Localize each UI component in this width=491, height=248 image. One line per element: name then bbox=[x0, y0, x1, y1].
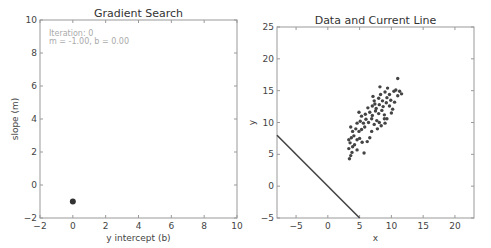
data-point bbox=[355, 148, 358, 151]
data-point bbox=[374, 107, 377, 110]
data-point bbox=[349, 154, 352, 157]
data-point bbox=[378, 103, 381, 106]
data-point bbox=[383, 90, 386, 93]
data-point bbox=[386, 86, 389, 89]
x-tick-label: 15 bbox=[417, 221, 428, 231]
y-tick-label: −2 bbox=[24, 213, 37, 223]
y-tick-label: 8 bbox=[31, 48, 37, 58]
data-point bbox=[373, 123, 376, 126]
data-point bbox=[366, 106, 369, 109]
x-tick-label: 6 bbox=[168, 221, 174, 231]
data-point bbox=[393, 100, 396, 103]
data-point bbox=[366, 140, 369, 143]
y-tick-label: 10 bbox=[263, 118, 275, 128]
data-point bbox=[348, 141, 351, 144]
data-point bbox=[378, 121, 381, 124]
y-tick-label: −5 bbox=[261, 213, 274, 223]
data-point bbox=[377, 112, 380, 115]
x-axis-label: y intercept (b) bbox=[106, 233, 170, 243]
data-point bbox=[373, 102, 376, 105]
data-point bbox=[388, 93, 391, 96]
current-parameter-point bbox=[70, 199, 76, 205]
plot-frame bbox=[277, 27, 474, 218]
y-tick-label: 4 bbox=[31, 114, 37, 124]
current-fit-line bbox=[277, 135, 360, 218]
data-point bbox=[368, 111, 371, 114]
x-axis-label: x bbox=[373, 233, 379, 243]
x-tick-label: −5 bbox=[289, 221, 302, 231]
y-tick-label: 0 bbox=[268, 181, 274, 191]
data-point bbox=[380, 109, 383, 112]
data-point bbox=[364, 113, 367, 116]
data-point bbox=[360, 114, 363, 117]
x-tick-label: 2 bbox=[103, 221, 109, 231]
data-point bbox=[353, 143, 356, 146]
x-tick-label: 8 bbox=[201, 221, 207, 231]
y-axis-label: y bbox=[247, 119, 257, 125]
data-point bbox=[360, 141, 363, 144]
data-point bbox=[357, 111, 360, 114]
data-point bbox=[389, 99, 392, 102]
data-point bbox=[351, 130, 354, 133]
data-point bbox=[383, 113, 386, 116]
data-point bbox=[363, 125, 366, 128]
data-point bbox=[380, 124, 383, 127]
data-point bbox=[349, 125, 352, 128]
data-point bbox=[379, 93, 382, 96]
data-point bbox=[391, 107, 394, 110]
x-tick-label: 10 bbox=[386, 221, 398, 231]
data-point bbox=[370, 117, 373, 120]
data-point bbox=[348, 157, 351, 160]
data-point bbox=[381, 105, 384, 108]
chart-title: Gradient Search bbox=[94, 7, 183, 20]
x-tick-label: 10 bbox=[231, 221, 243, 231]
data-point bbox=[368, 136, 371, 139]
data-point bbox=[394, 88, 397, 91]
data-point bbox=[367, 121, 370, 124]
data-point bbox=[390, 111, 393, 114]
data-point bbox=[362, 121, 365, 124]
y-tick-label: 10 bbox=[26, 15, 38, 25]
data-point bbox=[347, 147, 350, 150]
x-tick-label: 4 bbox=[136, 221, 142, 231]
data-point bbox=[383, 117, 386, 120]
data-point bbox=[371, 95, 374, 98]
data-point bbox=[376, 127, 379, 130]
data-point bbox=[383, 121, 386, 124]
y-tick-label: 15 bbox=[263, 86, 274, 96]
data-point bbox=[355, 121, 358, 124]
data-point bbox=[388, 104, 391, 107]
y-tick-label: 0 bbox=[31, 180, 37, 190]
data-point bbox=[377, 97, 380, 100]
data-point bbox=[396, 77, 399, 80]
x-tick-label: 0 bbox=[70, 221, 76, 231]
y-tick-label: 20 bbox=[263, 54, 275, 64]
data-point bbox=[354, 127, 357, 130]
data-point bbox=[352, 134, 355, 137]
data-point bbox=[362, 151, 365, 154]
data-point bbox=[364, 118, 367, 121]
figure: −20246810−20246810Gradient Searchy inter… bbox=[0, 0, 491, 248]
data-point bbox=[381, 99, 384, 102]
y-tick-label: 5 bbox=[268, 149, 274, 159]
data-point bbox=[370, 130, 373, 133]
iteration-annotation: m = -1.00, b = 0.00 bbox=[49, 37, 129, 46]
data-point bbox=[371, 114, 374, 117]
y-tick-label: 2 bbox=[31, 147, 37, 157]
data-point bbox=[385, 101, 388, 104]
data-point bbox=[378, 85, 381, 88]
x-tick-label: 20 bbox=[449, 221, 461, 231]
data-point bbox=[373, 99, 376, 102]
data-point bbox=[358, 137, 361, 140]
y-tick-label: 25 bbox=[263, 22, 274, 32]
x-tick-label: 0 bbox=[325, 221, 331, 231]
x-tick-label: 5 bbox=[357, 221, 363, 231]
plot-frame bbox=[40, 20, 237, 218]
y-tick-label: 6 bbox=[31, 81, 37, 91]
y-axis-label: slope (m) bbox=[10, 98, 20, 141]
chart-title: Data and Current Line bbox=[315, 14, 437, 27]
data-point bbox=[360, 128, 363, 131]
data-point bbox=[385, 96, 388, 99]
data-point bbox=[400, 92, 403, 95]
data-point bbox=[350, 151, 353, 154]
